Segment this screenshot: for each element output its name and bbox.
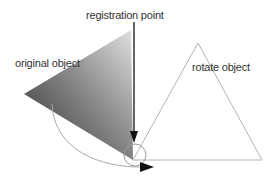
- rotate-object-label: rotate object: [192, 61, 250, 73]
- original-object-label: original object: [15, 57, 80, 69]
- rotation-arrowhead-icon: [140, 162, 154, 172]
- rotation-diagram: [0, 0, 275, 181]
- registration-point-label: registration point: [86, 9, 164, 21]
- original-object-triangle: [24, 30, 133, 160]
